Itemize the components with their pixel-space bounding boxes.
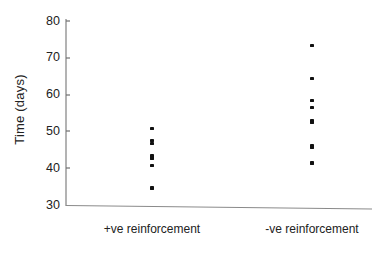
x-tick-label-positive: +ve reinforcement — [77, 222, 227, 236]
data-point — [150, 156, 153, 159]
data-point — [310, 99, 313, 102]
data-point — [150, 186, 153, 189]
y-tick-label-80: 80 — [34, 15, 60, 28]
x-axis-line — [66, 206, 372, 210]
data-point — [150, 127, 153, 130]
data-point — [310, 161, 313, 164]
data-point — [310, 106, 313, 109]
y-tick-label-60: 60 — [34, 88, 60, 101]
data-point — [310, 121, 313, 124]
x-tick-label-negative: -ve reinforcement — [237, 222, 378, 236]
y-tick-label-70: 70 — [34, 51, 60, 64]
data-point — [310, 77, 313, 80]
scatter-plot-figure: Time (days) 304050607080 +ve reinforceme… — [0, 0, 378, 255]
y-tick-label-50: 50 — [34, 125, 60, 138]
y-tick-label-30: 30 — [34, 199, 60, 212]
data-point — [150, 164, 153, 167]
data-point — [310, 146, 313, 149]
y-tick-label-40: 40 — [34, 162, 60, 175]
